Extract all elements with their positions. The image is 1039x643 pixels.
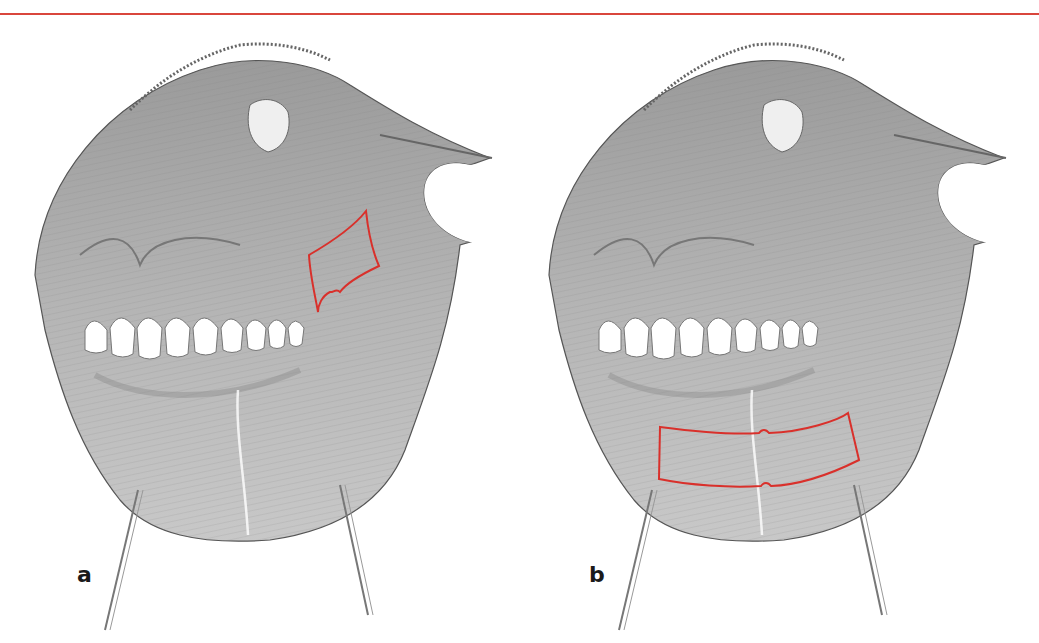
top-rule	[0, 13, 1039, 15]
panel-label-a: a	[77, 562, 92, 587]
panel-label-b: b	[589, 562, 605, 587]
panel-a: a	[0, 30, 520, 643]
mouth-illustration-a	[0, 30, 520, 643]
panel-b: b	[519, 30, 1039, 643]
mouth-illustration-b	[519, 30, 1039, 643]
